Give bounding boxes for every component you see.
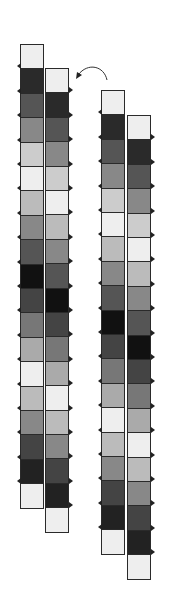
boundary-tick-icon <box>69 453 73 459</box>
shade-block <box>45 385 69 410</box>
boundary-tick-icon <box>151 476 155 482</box>
shade-block <box>127 115 151 140</box>
shade-block <box>127 310 151 335</box>
shade-block <box>45 68 69 93</box>
shade-block <box>45 288 69 313</box>
boundary-tick-icon <box>17 259 21 265</box>
boundary-tick-icon <box>98 158 102 164</box>
shade-block <box>45 263 69 288</box>
shade-block <box>20 459 44 484</box>
shade-block <box>127 554 151 579</box>
boundary-tick-icon <box>69 112 73 118</box>
shade-block <box>20 483 44 508</box>
boundary-tick-icon <box>69 185 73 191</box>
boundary-tick-icon <box>17 356 21 362</box>
shade-block <box>45 361 69 386</box>
boundary-tick-icon <box>17 381 21 387</box>
shade-block <box>20 44 44 69</box>
boundary-tick-icon <box>17 137 21 143</box>
boundary-tick-icon <box>151 281 155 287</box>
shade-block <box>101 139 125 164</box>
shade-block <box>20 190 44 215</box>
shade-block <box>101 505 125 530</box>
shade-block <box>20 215 44 240</box>
boundary-tick-icon <box>151 354 155 360</box>
shade-block <box>101 261 125 286</box>
boundary-tick-icon <box>69 380 73 386</box>
shade-block <box>20 264 44 289</box>
boundary-tick-icon <box>151 134 155 140</box>
shade-block <box>20 239 44 264</box>
strip-a-left <box>20 44 44 508</box>
boundary-tick-icon <box>17 234 21 240</box>
boundary-tick-icon <box>151 305 155 311</box>
boundary-tick-icon <box>17 63 21 69</box>
shade-block <box>45 410 69 435</box>
boundary-tick-icon <box>151 500 155 506</box>
boundary-tick-icon <box>151 525 155 531</box>
shade-block <box>45 239 69 264</box>
shade-block <box>101 358 125 383</box>
shade-block <box>127 237 151 262</box>
shade-block <box>101 310 125 335</box>
boundary-tick-icon <box>98 256 102 262</box>
boundary-tick-icon <box>98 524 102 530</box>
shade-block <box>20 361 44 386</box>
boundary-tick-icon <box>69 209 73 215</box>
boundary-tick-icon <box>98 475 102 481</box>
boundary-tick-icon <box>17 405 21 411</box>
shade-block <box>20 410 44 435</box>
boundary-tick-icon <box>151 378 155 384</box>
boundary-tick-icon <box>151 256 155 262</box>
shade-block <box>101 407 125 432</box>
shade-block <box>127 408 151 433</box>
shade-block <box>101 383 125 408</box>
boundary-tick-icon <box>98 500 102 506</box>
shade-block <box>45 117 69 142</box>
boundary-tick-icon <box>98 353 102 359</box>
boundary-tick-icon <box>17 454 21 460</box>
boundary-tick-icon <box>69 161 73 167</box>
shade-block <box>20 312 44 337</box>
boundary-tick-icon <box>151 452 155 458</box>
boundary-tick-icon <box>98 109 102 115</box>
shade-block <box>45 458 69 483</box>
boundary-tick-icon <box>17 429 21 435</box>
boundary-tick-icon <box>98 231 102 237</box>
shade-block <box>101 163 125 188</box>
boundary-tick-icon <box>151 403 155 409</box>
shade-block <box>101 432 125 457</box>
shade-block <box>127 286 151 311</box>
boundary-tick-icon <box>151 183 155 189</box>
boundary-tick-icon <box>17 161 21 167</box>
boundary-tick-icon <box>151 159 155 165</box>
shade-block <box>45 141 69 166</box>
boundary-tick-icon <box>151 330 155 336</box>
boundary-tick-icon <box>98 402 102 408</box>
shade-block <box>127 530 151 555</box>
shade-block <box>127 164 151 189</box>
boundary-tick-icon <box>98 183 102 189</box>
curved-arrow-icon <box>74 60 110 84</box>
shade-block <box>45 434 69 459</box>
boundary-tick-icon <box>69 478 73 484</box>
boundary-tick-icon <box>17 112 21 118</box>
shade-block <box>127 335 151 360</box>
shade-block <box>20 166 44 191</box>
boundary-tick-icon <box>98 305 102 311</box>
shade-block <box>127 359 151 384</box>
shade-block <box>127 139 151 164</box>
shade-block <box>45 190 69 215</box>
boundary-tick-icon <box>17 478 21 484</box>
shade-block <box>20 434 44 459</box>
boundary-tick-icon <box>98 280 102 286</box>
shade-block <box>20 93 44 118</box>
shade-block <box>45 507 69 532</box>
shade-block <box>127 432 151 457</box>
boundary-tick-icon <box>69 283 73 289</box>
shade-block <box>127 457 151 482</box>
boundary-tick-icon <box>98 134 102 140</box>
shade-block <box>45 336 69 361</box>
boundary-tick-icon <box>69 307 73 313</box>
boundary-tick-icon <box>69 405 73 411</box>
